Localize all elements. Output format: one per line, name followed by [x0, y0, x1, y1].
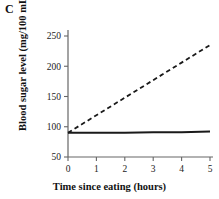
data-series — [68, 45, 210, 133]
y-axis-ticks: 50100150200250 — [47, 31, 68, 162]
x-tick-label: 1 — [94, 164, 99, 174]
x-tick-label: 3 — [151, 164, 156, 174]
x-tick-label: 0 — [66, 164, 71, 174]
series-line-diabetic — [68, 45, 210, 133]
x-tick-label: 2 — [122, 164, 127, 174]
plot-area: 50100150200250 012345 — [0, 0, 219, 199]
series-line-normal — [68, 132, 210, 133]
x-tick-label: 4 — [179, 164, 184, 174]
x-axis-ticks: 012345 — [66, 157, 213, 174]
y-tick-label: 200 — [47, 62, 62, 72]
y-tick-label: 50 — [52, 152, 62, 162]
x-tick-label: 5 — [208, 164, 213, 174]
y-tick-label: 150 — [47, 92, 62, 102]
figure-panel-c: C Blood sugar level (mg/100 mL) Time sin… — [0, 0, 219, 199]
axes — [68, 30, 213, 157]
y-tick-label: 100 — [47, 122, 62, 132]
y-tick-label: 250 — [47, 31, 62, 41]
